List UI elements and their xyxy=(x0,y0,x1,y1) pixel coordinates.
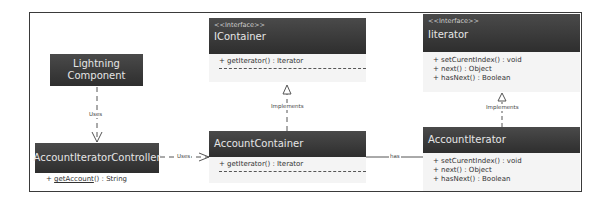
stereotype-label: <<Interface>> xyxy=(209,18,366,29)
edge-label-uses: Uses xyxy=(88,111,103,118)
method-item: + setCurentIndex() : void xyxy=(433,56,580,65)
method-item: + hasNext() : Boolean xyxy=(433,74,580,83)
node-title: Iiterator xyxy=(423,25,580,42)
edge-label-uses: Uses xyxy=(176,153,191,160)
node-title: AccountIterator xyxy=(423,127,580,147)
icontainer-node[interactable]: <<Interface>> IContainer + getIterator()… xyxy=(209,18,366,82)
method-item: + next() : Object xyxy=(433,65,580,74)
lightning-component-node[interactable]: Lightning Component xyxy=(50,54,143,86)
method-item: + hasNext() : Boolean xyxy=(433,175,580,184)
account-iterator-node[interactable]: AccountIterator + setCurentIndex() : voi… xyxy=(423,127,580,191)
method-name: getAccount xyxy=(54,175,94,183)
edge-label-implements: Implements xyxy=(485,104,520,111)
method-item: + getIterator() : Iterator xyxy=(219,57,366,69)
node-title: AccountIteratorController xyxy=(34,152,161,164)
node-label-line1: Lightning xyxy=(67,58,125,70)
stereotype-label: <<Interface>> xyxy=(423,14,580,25)
edge-label-implements: Implements xyxy=(270,103,305,110)
node-title: AccountContainer xyxy=(209,131,366,151)
method-signature: () : String xyxy=(94,175,127,183)
method-visibility: + xyxy=(46,175,52,183)
method-item: + next() : Object xyxy=(433,166,580,175)
method-item: + getIterator() : Iterator xyxy=(219,160,366,172)
node-title: IContainer xyxy=(209,29,366,44)
method-item: + setCurentIndex() : void xyxy=(433,157,580,166)
node-label-line2: Component xyxy=(67,70,125,82)
account-iterator-controller-node[interactable]: AccountIteratorController xyxy=(35,143,159,173)
iiterator-node[interactable]: <<Interface>> Iiterator + setCurentIndex… xyxy=(423,14,580,92)
edge-label-has: has xyxy=(389,153,401,160)
controller-method: + getAccount() : String xyxy=(46,175,127,183)
account-container-node[interactable]: AccountContainer + getIterator() : Itera… xyxy=(209,131,366,183)
